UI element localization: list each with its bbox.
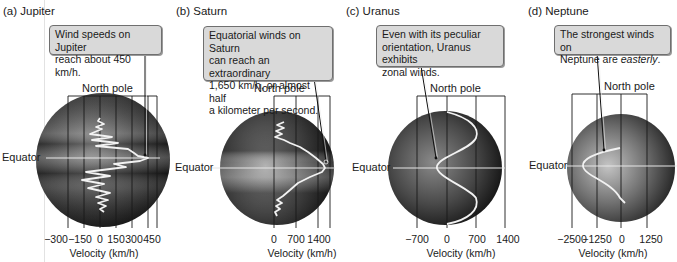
tick-label: 1400 [496, 233, 519, 245]
tick-label: −300 [44, 233, 68, 245]
panel-title-jupiter: (a) Jupiter [3, 5, 55, 17]
equator-label-neptune: Equator [529, 159, 568, 171]
callout-uranus-line2: orientation, Uranus exhibits [382, 41, 498, 66]
tick-label: −150 [68, 233, 92, 245]
equator-label-jupiter: Equator [2, 151, 41, 163]
tick-label: 0 [271, 233, 277, 245]
panel-title-saturn: (b) Saturn [176, 5, 227, 17]
equator-label-uranus: Equator [352, 161, 391, 173]
axis-title-neptune: Velocity (km/h) [579, 247, 648, 259]
axis-title-jupiter: Velocity (km/h) [70, 247, 139, 259]
callout-neptune-period: . [657, 53, 660, 65]
tick-label: 0 [619, 233, 625, 245]
callout-saturn-line4: a kilometer per second. [209, 104, 327, 117]
tick-label: −700 [405, 233, 429, 245]
north-pole-label-uranus: North pole [430, 82, 481, 94]
tick-label: 150 [107, 233, 125, 245]
axis-title-saturn: Velocity (km/h) [268, 247, 337, 259]
callout-uranus: Even with its peculiar orientation, Uran… [376, 25, 504, 67]
panel-title-neptune: (d) Neptune [528, 5, 589, 17]
callout-neptune-text: Neptune are [560, 53, 621, 65]
callout-neptune-line2: Neptune are easterly. [560, 53, 665, 66]
callout-jupiter-line1: Wind speeds on Jupiter [55, 28, 156, 53]
callout-neptune-emphasis: easterly [621, 53, 658, 65]
callout-jupiter: Wind speeds on Jupiter reach about 450 k… [49, 25, 162, 55]
callout-jupiter-line2: reach about 450 km/h. [55, 53, 156, 78]
callout-uranus-line3: zonal winds. [382, 66, 498, 79]
callout-neptune-line1: The strongest winds on [560, 28, 665, 53]
tick-label: 450 [143, 233, 161, 245]
tick-label: 1400 [307, 233, 330, 245]
equator-label-saturn: Equator [175, 161, 214, 173]
callout-saturn-line1: Equatorial winds on Saturn [209, 29, 327, 54]
panel-title-uranus: (c) Uranus [346, 5, 400, 17]
callout-neptune: The strongest winds on Neptune are easte… [554, 25, 671, 55]
tick-label: 0 [97, 233, 103, 245]
axis-title-uranus: Velocity (km/h) [427, 247, 496, 259]
tick-label: 700 [468, 233, 486, 245]
north-pole-label-saturn: North pole [254, 82, 305, 94]
jupiter-diagram [36, 55, 170, 228]
callout-uranus-line1: Even with its peculiar [382, 28, 498, 41]
tick-label: −1250 [582, 233, 612, 245]
tick-label: 0 [444, 233, 450, 245]
north-pole-label-neptune: North pole [604, 80, 655, 92]
tick-label: 1250 [639, 233, 662, 245]
callout-saturn-line2: can reach an extraordinary [209, 54, 327, 79]
tick-label: 700 [287, 233, 305, 245]
tick-label: 300 [125, 233, 143, 245]
callout-saturn: Equatorial winds on Saturn can reach an … [203, 26, 333, 81]
north-pole-label-jupiter: North pole [82, 82, 133, 94]
